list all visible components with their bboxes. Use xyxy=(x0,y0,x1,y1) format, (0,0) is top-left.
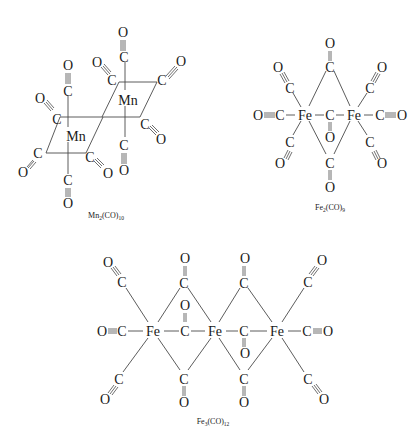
oxygen-atom: O xyxy=(275,156,285,171)
metal-atom-fe: Fe xyxy=(146,324,160,339)
oxygen-atom: O xyxy=(180,298,190,313)
bond xyxy=(309,121,326,154)
carbon-atom: C xyxy=(303,372,312,387)
oxygen-atom: O xyxy=(92,55,102,70)
oxygen-atom: O xyxy=(63,196,73,211)
carbon-atom: C xyxy=(107,73,116,88)
double-bond xyxy=(184,266,186,276)
carbon-atom: C xyxy=(114,372,123,387)
carbon-atom: C xyxy=(375,108,384,123)
metal-atom-fe: Fe xyxy=(347,108,361,123)
triple-bond xyxy=(385,113,396,117)
lower-mn-plane-edge xyxy=(86,117,103,153)
carbon-atom: C xyxy=(119,50,128,65)
oxygen-atom: O xyxy=(176,54,186,69)
oxygen-atom: O xyxy=(18,165,28,180)
metal-atom-fe: Fe xyxy=(298,108,312,123)
oxygen-atom: O xyxy=(325,180,335,195)
carbon-atom: C xyxy=(63,173,72,188)
carbon-atom: C xyxy=(52,112,61,127)
carbon-atom: C xyxy=(33,146,42,161)
double-bond xyxy=(243,266,245,276)
carbon-atom: C xyxy=(365,135,374,150)
oxygen-atom: O xyxy=(118,25,128,40)
oxygen-atom: O xyxy=(377,60,387,75)
carbon-atom: C xyxy=(325,108,334,123)
bond xyxy=(126,288,148,322)
bond xyxy=(123,338,148,372)
carbon-atom: C xyxy=(365,81,374,96)
bond xyxy=(248,338,272,370)
bond xyxy=(158,338,180,370)
carbon-atom: C xyxy=(117,324,126,339)
bond xyxy=(188,338,211,370)
caption-fe2co9: Fe2(CO)9 xyxy=(315,203,345,213)
triple-bond xyxy=(27,160,36,169)
oxygen-atom: O xyxy=(397,108,407,123)
metal-atom-fe: Fe xyxy=(270,324,284,339)
oxygen-atom: O xyxy=(317,253,327,268)
oxygen-atom: O xyxy=(97,324,107,339)
bond xyxy=(309,71,326,106)
carbon-atom: C xyxy=(239,276,248,291)
carbon-atom: C xyxy=(303,275,312,290)
oxygen-atom: O xyxy=(377,156,387,171)
molecule-fe2co9: Fe Fe O C C O C O O C C O O C O C C O C xyxy=(253,36,407,213)
molecule-fe3co12: Fe Fe Fe O C O C C O C O O C O C C O C O xyxy=(97,251,333,427)
oxygen-atom: O xyxy=(119,163,129,178)
oxygen-atom: O xyxy=(100,392,110,407)
carbon-atom: C xyxy=(63,84,72,99)
carbon-atom: C xyxy=(325,156,334,171)
bond xyxy=(358,121,367,135)
oxygen-atom: O xyxy=(240,251,250,266)
oxygen-atom: O xyxy=(325,130,335,145)
oxygen-atom: O xyxy=(325,36,335,51)
bond xyxy=(293,121,301,135)
bond xyxy=(334,121,350,154)
oxygen-atom: O xyxy=(179,395,189,410)
caption-fe3co12: Fe3(CO)12 xyxy=(197,417,230,427)
oxygen-atom: O xyxy=(63,58,73,73)
carbon-atom: C xyxy=(275,108,284,123)
oxygen-atom: O xyxy=(273,60,283,75)
carbon-atom: C xyxy=(285,81,294,96)
bond xyxy=(188,288,211,322)
oxygen-atom: O xyxy=(323,324,333,339)
bond xyxy=(282,288,304,322)
carbon-atom: C xyxy=(157,73,166,88)
bond xyxy=(334,71,350,106)
bond xyxy=(219,288,240,322)
metal-atom-mn: Mn xyxy=(66,129,85,144)
carbon-atom: C xyxy=(140,117,149,132)
metal-atom-mn: Mn xyxy=(118,93,137,108)
carbon-atom: C xyxy=(179,276,188,291)
caption-mn2co10: Mn2(CO)10 xyxy=(88,211,124,221)
oxygen-atom: O xyxy=(103,255,113,270)
carbon-atom: C xyxy=(179,372,188,387)
metal-atom-fe: Fe xyxy=(208,324,222,339)
oxygen-atom: O xyxy=(240,346,250,361)
carbon-atom: C xyxy=(325,60,334,75)
carbon-atom: C xyxy=(85,150,94,165)
oxygen-atom: O xyxy=(103,166,113,181)
double-bond xyxy=(184,313,186,322)
carbon-atom: C xyxy=(117,275,126,290)
molecule-mn2co10: Mn O C O C C O C O C O Mn O C O C C O xyxy=(18,25,186,221)
triple-bond xyxy=(264,113,275,117)
bond xyxy=(248,288,272,322)
bond xyxy=(282,338,304,372)
triple-bond xyxy=(284,150,292,160)
carbon-atom: C xyxy=(239,372,248,387)
triple-bond xyxy=(313,329,322,333)
oxygen-atom: O xyxy=(156,132,166,147)
carbon-atom: C xyxy=(302,324,311,339)
triple-bond xyxy=(108,329,117,333)
oxygen-atom: O xyxy=(180,251,190,266)
carbon-atom: C xyxy=(239,324,248,339)
triple-bond xyxy=(44,100,54,111)
oxygen-atom: O xyxy=(253,108,263,123)
chemical-structures-diagram: Mn O C O C C O C O C O Mn O C O C C O xyxy=(0,0,420,436)
bond xyxy=(158,288,180,322)
oxygen-atom: O xyxy=(319,392,329,407)
carbon-atom: C xyxy=(180,324,189,339)
